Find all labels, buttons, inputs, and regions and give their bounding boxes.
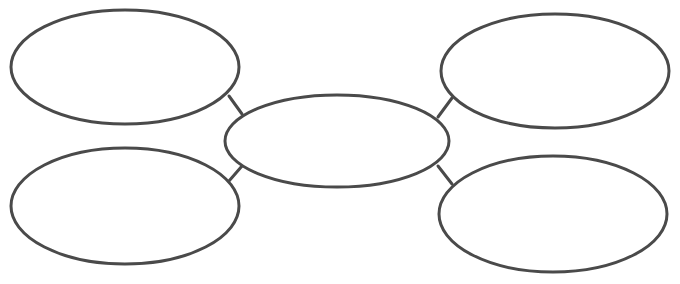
node-label-bottom-right bbox=[439, 156, 667, 272]
node-label-top-left bbox=[11, 10, 239, 124]
node-label-bottom-left bbox=[11, 148, 239, 264]
node-label-center bbox=[225, 95, 449, 187]
bubble-map-diagram bbox=[0, 0, 680, 284]
node-label-top-right bbox=[441, 14, 669, 128]
